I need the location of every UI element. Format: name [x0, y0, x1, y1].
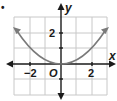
- y-tick-label-2: 2: [49, 27, 55, 39]
- coordinate-plane: • y x O −2 2 2: [0, 0, 117, 101]
- y-axis-down-arrow-icon: [58, 93, 65, 100]
- x-axis-label: x: [108, 49, 117, 63]
- x-tick-label-2: 2: [88, 67, 94, 79]
- y-axis-up-arrow-icon: [58, 3, 65, 10]
- x-axis-left-arrow-icon: [6, 61, 13, 68]
- y-axis: [58, 3, 65, 100]
- x-tick-label-neg2: −2: [24, 67, 37, 79]
- y-axis-label: y: [64, 1, 73, 15]
- item-marker: •: [1, 2, 5, 13]
- origin-label: O: [49, 67, 58, 79]
